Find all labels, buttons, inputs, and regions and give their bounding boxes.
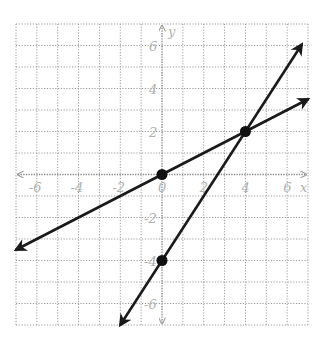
data-point <box>157 255 168 266</box>
y-tick-label: 4 <box>148 82 157 97</box>
y-tick-label: -2 <box>144 211 157 226</box>
y-tick-label: -4 <box>144 254 157 269</box>
x-tick-label: -4 <box>71 180 84 195</box>
data-point <box>157 169 168 180</box>
y-tick-label: 2 <box>148 125 157 140</box>
x-tick-label: 4 <box>240 180 249 195</box>
data-point <box>240 126 251 137</box>
y-tick-label: -6 <box>144 297 157 312</box>
line-2 <box>120 44 301 325</box>
x-tick-label: -2 <box>112 180 125 195</box>
x-axis-label: x <box>300 180 308 195</box>
y-axis-label: y <box>167 24 176 39</box>
x-tick-label: 0 <box>158 180 166 195</box>
x-tick-label: 6 <box>283 180 291 195</box>
x-tick-label: -6 <box>29 180 42 195</box>
y-tick-label: 6 <box>149 39 157 54</box>
coordinate-graph: -6-4-20246642-2-4-6xy <box>0 0 318 338</box>
